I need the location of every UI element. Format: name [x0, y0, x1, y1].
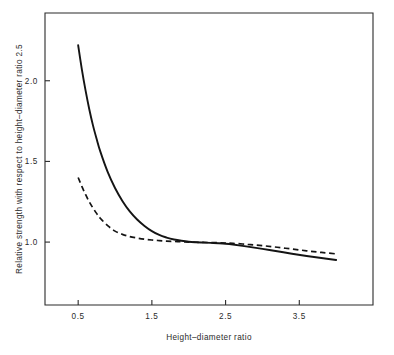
x-tick-label: 3.5: [293, 312, 306, 321]
line-chart: 0.51.52.53.5 1.01.52.0 Height–diameter r…: [0, 0, 394, 355]
x-axis-title: Height–diameter ratio: [166, 333, 252, 342]
y-tick-label: 1.0: [25, 238, 38, 247]
y-tick-label: 1.5: [25, 157, 38, 166]
figure-container: 0.51.52.53.5 1.01.52.0 Height–diameter r…: [0, 0, 394, 355]
x-tick-label: 2.5: [219, 312, 232, 321]
x-tick-label: 1.5: [145, 312, 158, 321]
x-tick-label: 0.5: [72, 312, 85, 321]
chart-background: [0, 0, 394, 355]
y-tick-label: 2.0: [25, 77, 38, 86]
y-axis-title: Relative strength with respect to height…: [15, 44, 24, 274]
